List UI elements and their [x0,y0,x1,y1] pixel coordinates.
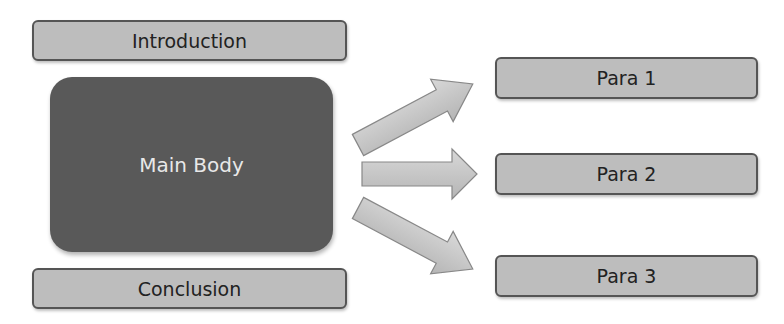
para-2-label: Para 2 [597,163,657,185]
arrow-to-para-3-icon [347,187,484,290]
para-1-box: Para 1 [495,57,758,99]
arrow-to-para-1-icon [347,63,484,166]
para-1-label: Para 1 [597,67,657,89]
arrow-to-para-2-icon [362,149,477,199]
para-3-label: Para 3 [597,265,657,287]
para-3-box: Para 3 [495,255,758,297]
para-2-box: Para 2 [495,153,758,195]
